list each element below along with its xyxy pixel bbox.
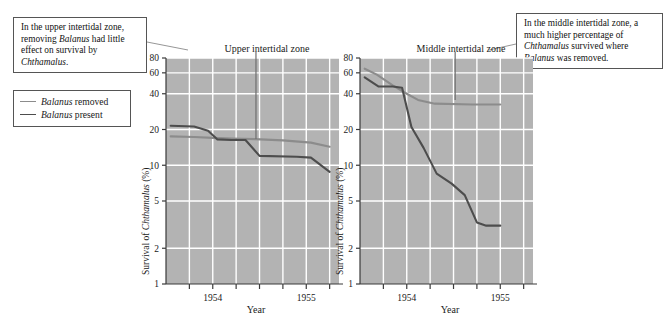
legend-swatch-balanus-removed (20, 101, 36, 102)
figure-legend: Balanus removed Balanus present (13, 90, 131, 127)
legend-item-balanus-present: Balanus present (19, 108, 125, 121)
y-axis-tick-label: 1 (348, 279, 353, 289)
chart-panel-middle-intertidal: Middle intertidal zone 80604020105211954… (320, 0, 560, 330)
x-axis-label-upper: Year (166, 304, 346, 315)
y-axis-tick-label: 80 (150, 53, 160, 63)
y-axis-tick-label: 80 (344, 53, 354, 63)
y-axis-tick-label: 2 (154, 244, 159, 254)
legend-label-balanus-removed: Balanus removed (41, 95, 108, 108)
y-axis-tick-label: 1 (154, 279, 159, 289)
x-axis-tick-label: 1955 (491, 293, 510, 303)
x-axis-label-middle: Year (360, 304, 540, 315)
y-axis-tick-label: 20 (150, 125, 160, 135)
y-axis-tick-label: 20 (344, 125, 354, 135)
y-axis-label-upper: Survival of Chthamalus (%) (141, 168, 151, 275)
chart-plot-middle: 806040201052119541955 (320, 0, 560, 330)
y-axis-tick-label: 40 (344, 89, 354, 99)
y-axis-tick-label: 40 (150, 89, 160, 99)
x-axis-tick-label: 1954 (203, 293, 222, 303)
plot-background (166, 58, 339, 284)
y-axis-tick-label: 5 (154, 196, 159, 206)
y-axis-tick-label: 2 (348, 244, 353, 254)
callout-upper-text: In the upper intertidal zone, removing B… (21, 22, 125, 67)
y-axis-tick-label: 60 (150, 68, 160, 78)
legend-item-balanus-removed: Balanus removed (19, 95, 125, 108)
plot-background (360, 58, 533, 284)
legend-label-balanus-present: Balanus present (41, 108, 103, 121)
y-axis-tick-label: 60 (344, 68, 354, 78)
x-axis-tick-label: 1955 (297, 293, 316, 303)
y-axis-tick-label: 5 (348, 196, 353, 206)
legend-swatch-balanus-present (20, 114, 36, 115)
y-axis-label-middle: Survival of Chthamalus (%) (335, 168, 345, 275)
x-axis-tick-label: 1954 (397, 293, 416, 303)
